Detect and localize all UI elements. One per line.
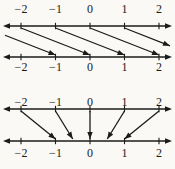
- halving-map-diagram: −2−1012−2−1012: [3, 95, 172, 160]
- mapping-arrow: [90, 28, 159, 55]
- source-tick-label: −2: [15, 2, 28, 16]
- target-tick-label: 1: [122, 60, 128, 74]
- target-line-left-arrowhead-icon: [3, 54, 10, 59]
- source-tick-label: 1: [122, 95, 128, 109]
- target-line-left-arrowhead-icon: [3, 138, 10, 143]
- mapping-arrowhead-icon: [87, 132, 92, 139]
- mapping-arrow: [125, 28, 171, 46]
- mapping-arrow: [56, 28, 125, 55]
- target-tick-label: −1: [49, 60, 62, 74]
- figure-canvas: −2−1012−2−1012−2−1012−2−1012: [0, 0, 175, 169]
- source-line-left-arrowhead-icon: [3, 106, 10, 111]
- target-tick-label: 0: [87, 60, 93, 74]
- mapping-arrowhead-icon: [48, 50, 56, 55]
- target-line-right-arrowhead-icon: [165, 54, 172, 59]
- mapping-arrowhead-icon: [67, 132, 73, 139]
- source-line-right-arrowhead-icon: [165, 23, 172, 28]
- source-line-left-arrowhead-icon: [3, 23, 10, 28]
- target-tick-label: 0: [87, 146, 93, 160]
- source-tick-label: −1: [49, 2, 62, 16]
- mapping-arrowhead-icon: [151, 50, 159, 55]
- mapping-arrowhead-icon: [162, 41, 170, 46]
- source-tick-label: 0: [87, 2, 93, 16]
- target-line-right-arrowhead-icon: [165, 138, 172, 143]
- target-tick-label: 2: [156, 146, 162, 160]
- number-line-mapping-figure: −2−1012−2−1012−2−1012−2−1012: [0, 0, 175, 169]
- source-tick-label: −1: [49, 95, 62, 109]
- mapping-arrow: [21, 28, 90, 55]
- mapping-arrowhead-icon: [107, 132, 113, 139]
- source-tick-label: 2: [156, 2, 162, 16]
- target-tick-label: 2: [156, 60, 162, 74]
- source-tick-label: 2: [156, 95, 162, 109]
- source-tick-label: 1: [122, 2, 128, 16]
- target-tick-label: −1: [49, 146, 62, 160]
- source-line-right-arrowhead-icon: [165, 106, 172, 111]
- mapping-arrowhead-icon: [117, 50, 125, 55]
- source-tick-label: −2: [15, 95, 28, 109]
- target-tick-label: 1: [122, 146, 128, 160]
- source-tick-label: 0: [87, 95, 93, 109]
- target-tick-label: −2: [15, 146, 28, 160]
- target-tick-label: −2: [15, 60, 28, 74]
- shift-right-map-diagram: −2−1012−2−1012: [3, 2, 172, 74]
- mapping-arrowhead-icon: [82, 50, 90, 55]
